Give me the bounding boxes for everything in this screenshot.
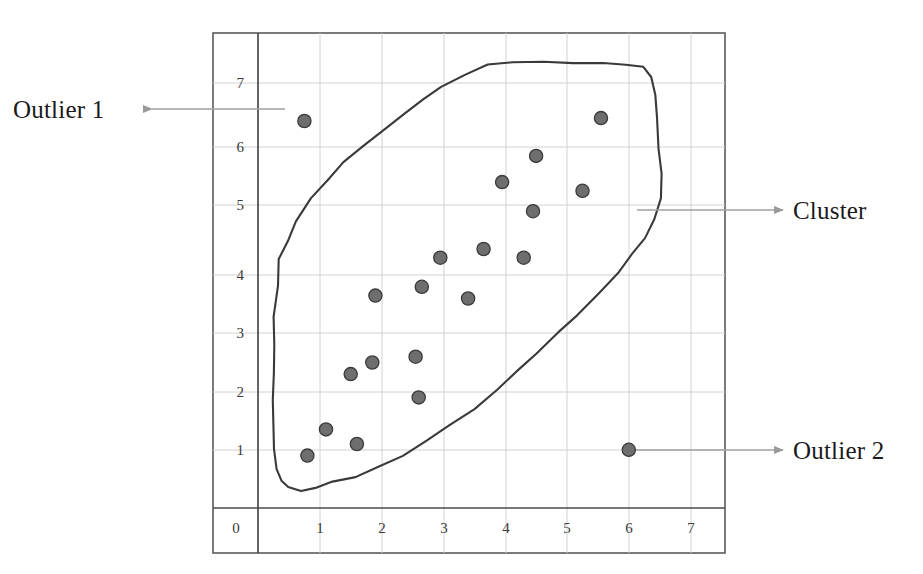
data-point xyxy=(344,368,357,381)
data-point xyxy=(496,176,509,189)
data-point xyxy=(530,149,543,162)
data-points-layer xyxy=(298,112,636,463)
data-point xyxy=(477,242,490,255)
y-axis-tick-labels: 7 6 5 4 3 2 1 xyxy=(237,75,245,458)
data-point xyxy=(409,350,422,363)
y-tick-4: 4 xyxy=(237,267,245,283)
y-tick-1: 1 xyxy=(237,442,245,458)
data-point xyxy=(319,423,332,436)
figure-canvas: scan of figure caption (clipped) xyxy=(0,0,923,574)
data-point xyxy=(594,112,607,125)
label-outlier-1: Outlier 1 xyxy=(13,96,104,123)
y-tick-2: 2 xyxy=(237,384,245,400)
data-point xyxy=(415,280,428,293)
x-tick-5: 5 xyxy=(563,520,571,536)
y-tick-7: 7 xyxy=(237,75,245,91)
data-point xyxy=(301,449,314,462)
series-outliers xyxy=(298,114,636,456)
data-point xyxy=(412,391,425,404)
y-tick-6: 6 xyxy=(237,139,245,155)
data-point xyxy=(434,251,447,264)
x-tick-3: 3 xyxy=(440,520,448,536)
x-tick-4: 4 xyxy=(502,520,510,536)
data-point xyxy=(298,114,311,127)
data-point xyxy=(369,289,382,302)
label-cluster: Cluster xyxy=(793,197,867,224)
label-outlier-2: Outlier 2 xyxy=(793,437,884,464)
x-tick-1: 1 xyxy=(316,520,324,536)
data-point xyxy=(462,292,475,305)
scatter-plot-svg: 7 6 5 4 3 2 1 0 1 2 3 4 5 6 7 Outlier xyxy=(0,0,923,574)
y-tick-3: 3 xyxy=(237,325,245,341)
annotation-leaders xyxy=(152,109,783,450)
y-tick-5: 5 xyxy=(237,197,245,213)
data-point xyxy=(622,443,635,456)
x-tick-7: 7 xyxy=(687,520,695,536)
x-axis-tick-labels: 0 1 2 3 4 5 6 7 xyxy=(232,520,695,536)
x-tick-6: 6 xyxy=(625,520,633,536)
data-point xyxy=(350,437,363,450)
data-point xyxy=(517,251,530,264)
data-point xyxy=(576,184,589,197)
x-tick-0: 0 xyxy=(232,520,240,536)
data-point xyxy=(366,356,379,369)
x-tick-2: 2 xyxy=(378,520,386,536)
data-point xyxy=(526,205,539,218)
series-cluster xyxy=(301,112,608,463)
